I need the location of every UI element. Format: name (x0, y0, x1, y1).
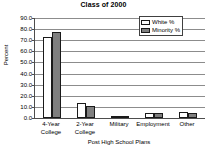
y-tick-mark (32, 118, 35, 119)
chart-screenshot: Class of 2000 Percent 0.010.020.030.040.… (0, 0, 207, 149)
y-tick-label: 80.0 (8, 26, 32, 32)
bar[interactable] (77, 103, 86, 118)
x-axis-tick-labels: 4-YearCollege2-YearCollegeMilitaryEmploy… (34, 120, 204, 140)
y-tick-label: 30.0 (8, 82, 32, 88)
bar-group (77, 18, 95, 118)
bar[interactable] (111, 116, 120, 118)
bar[interactable] (179, 112, 188, 118)
bar[interactable] (86, 106, 95, 118)
y-tick-label: 70.0 (8, 37, 32, 43)
y-tick-label: 60.0 (8, 48, 32, 54)
bar[interactable] (52, 32, 61, 118)
y-tick-label: 40.0 (8, 71, 32, 77)
legend-item[interactable]: Minority % (141, 26, 180, 34)
legend-swatch-icon (141, 28, 150, 33)
legend-item[interactable]: White % (141, 18, 180, 26)
bar[interactable] (145, 113, 154, 118)
chart-title: Class of 2000 (0, 1, 207, 8)
bar[interactable] (154, 113, 163, 118)
x-axis-label: Post High School Plans (34, 139, 204, 145)
legend-label: Minority % (152, 27, 180, 34)
x-tick-label-line: Other (164, 120, 207, 128)
bar[interactable] (43, 37, 52, 118)
y-tick-label: 20.0 (8, 93, 32, 99)
y-tick-label: 10.0 (8, 104, 32, 110)
chart-legend: White %Minority % (139, 16, 183, 36)
y-axis-tick-labels: 0.010.020.030.040.050.060.070.080.090.0 (8, 18, 32, 118)
legend-swatch-icon (141, 20, 150, 25)
bar-group (111, 18, 129, 118)
legend-label: White % (152, 19, 174, 26)
bar[interactable] (120, 116, 129, 118)
y-tick-label: 90.0 (8, 15, 32, 21)
bar-group (43, 18, 61, 118)
x-tick-label: Other (164, 120, 207, 128)
y-tick-label: 50.0 (8, 59, 32, 65)
x-tick-label-line: College (62, 128, 108, 136)
bar[interactable] (188, 113, 197, 118)
